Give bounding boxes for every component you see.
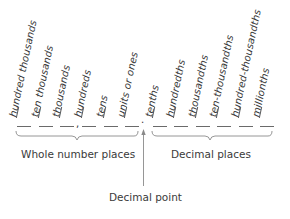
arrow-head-icon [141, 129, 145, 135]
braces-and-arrow [0, 0, 290, 219]
whole-number-places-label: Whole number places [21, 148, 135, 160]
whole-number-brace [16, 131, 138, 140]
decimal-places-brace [152, 131, 272, 140]
place-value-diagram: hundred thousands ten thousands thousand… [0, 0, 290, 219]
decimal-point-label: Decimal point [109, 191, 182, 203]
decimal-places-label: Decimal places [171, 148, 251, 160]
